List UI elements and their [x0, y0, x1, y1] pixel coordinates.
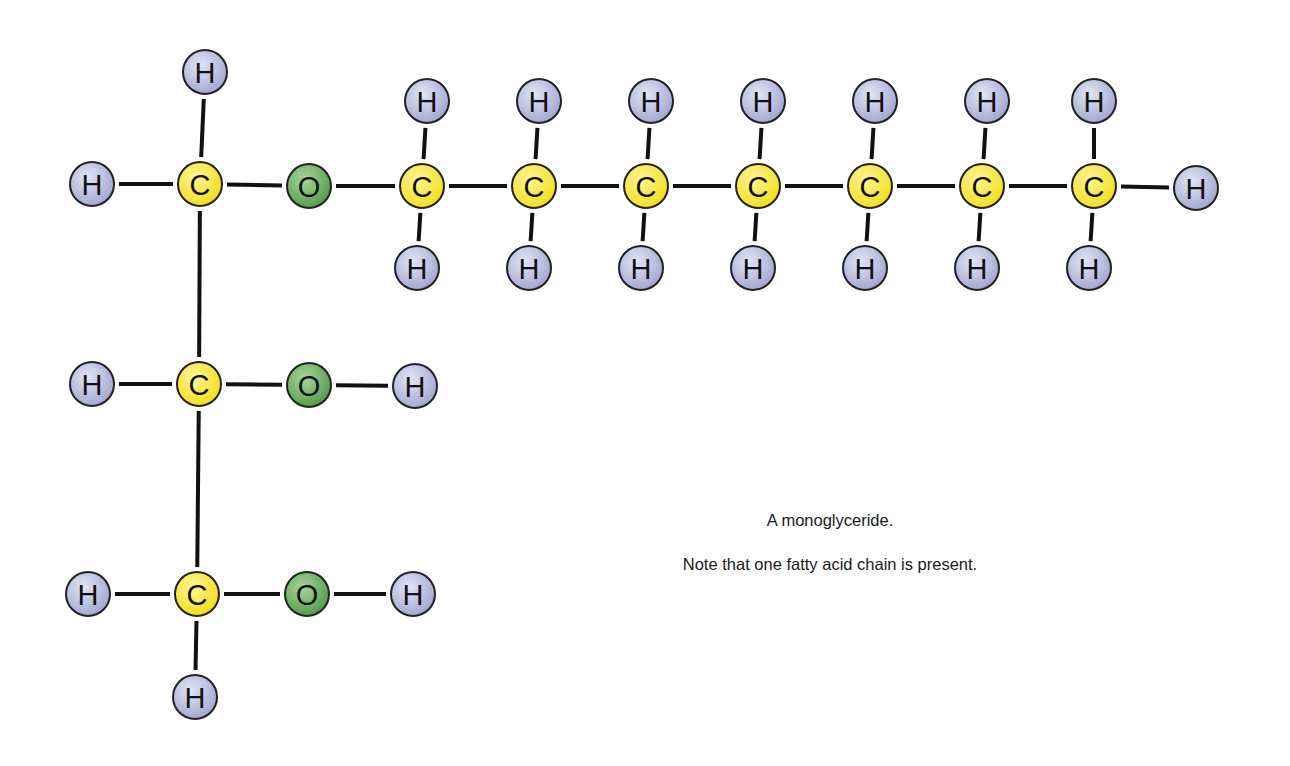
- atom-label: H: [1079, 253, 1100, 285]
- bond-CA6-HT6: [984, 128, 986, 159]
- atom-label: H: [417, 86, 438, 118]
- hydrogen-atom: H: [173, 675, 217, 719]
- atom-label: H: [865, 86, 886, 118]
- bond-CA4-HT4: [760, 128, 762, 159]
- hydrogen-atom: H: [405, 79, 449, 123]
- atom-label: H: [195, 57, 216, 89]
- hydrogen-atom: H: [629, 79, 673, 123]
- atom-label: C: [748, 171, 769, 203]
- carbon-atom: C: [624, 164, 668, 208]
- hydrogen-atom: H: [1072, 79, 1116, 123]
- hydrogen-atom: H: [393, 364, 437, 408]
- oxygen-atom: O: [285, 572, 329, 616]
- atom-label: H: [743, 253, 764, 285]
- carbon-atom: C: [736, 164, 780, 208]
- hydrogen-atom: H: [70, 162, 114, 206]
- atom-label: H: [641, 86, 662, 118]
- carbon-atom: C: [960, 164, 1004, 208]
- bond-CA5-HT5: [872, 128, 874, 159]
- atom-label: H: [1084, 86, 1105, 118]
- atom-label: C: [187, 579, 208, 611]
- atom-label: C: [189, 369, 210, 401]
- atom-label: H: [519, 253, 540, 285]
- hydrogen-atom: H: [955, 246, 999, 290]
- bond-CA7-HB7: [1091, 213, 1093, 241]
- atom-label: O: [298, 370, 321, 402]
- atom-label: H: [82, 369, 103, 401]
- carbon-atom: C: [1072, 164, 1116, 208]
- atom-label: H: [855, 253, 876, 285]
- bond-C2-C3: [197, 411, 198, 567]
- bond-CA2-HB2: [531, 213, 533, 241]
- atom-label: H: [78, 579, 99, 611]
- atom-label: H: [405, 371, 426, 403]
- atom-label: H: [185, 682, 206, 714]
- hydrogen-atom: H: [395, 246, 439, 290]
- bond-H1-C1: [201, 99, 204, 157]
- bond-C2-O2: [226, 384, 282, 385]
- atom-label: H: [529, 86, 550, 118]
- atom-label: C: [524, 171, 545, 203]
- atom-label: C: [190, 169, 211, 201]
- bond-CA3-HT3: [648, 128, 650, 159]
- bond-CA1-HB1: [419, 213, 421, 241]
- hydrogen-atom: H: [965, 79, 1009, 123]
- atom-label: O: [296, 579, 319, 611]
- carbon-atom: C: [848, 164, 892, 208]
- hydrogen-atom: H: [1067, 246, 1111, 290]
- hydrogen-atom: H: [66, 572, 110, 616]
- carbon-atom: C: [512, 164, 556, 208]
- hydrogen-atom: H: [1174, 166, 1218, 210]
- bond-CA3-HB3: [643, 213, 645, 241]
- atom-label: H: [631, 253, 652, 285]
- bond-CA1-HT1: [424, 128, 426, 159]
- bond-CA7-HE: [1121, 187, 1169, 188]
- hydrogen-atom: H: [70, 362, 114, 406]
- hydrogen-atom: H: [853, 79, 897, 123]
- carbon-atom: C: [400, 164, 444, 208]
- atom-label: H: [403, 579, 424, 611]
- diagram-title: A monoglyceride.: [560, 511, 1100, 530]
- carbon-atom: C: [178, 162, 222, 206]
- atom-label: H: [753, 86, 774, 118]
- atom-label: C: [860, 171, 881, 203]
- bond-CA2-HT2: [536, 128, 538, 159]
- hydrogen-atom: H: [517, 79, 561, 123]
- hydrogen-atom: H: [507, 246, 551, 290]
- hydrogen-atom: H: [183, 50, 227, 94]
- atom-label: C: [636, 171, 657, 203]
- atom-label: C: [1084, 171, 1105, 203]
- atom-label: H: [1186, 173, 1207, 205]
- hydrogen-atom: H: [741, 79, 785, 123]
- atom-label: O: [298, 171, 321, 203]
- atom-label: H: [977, 86, 998, 118]
- oxygen-atom: O: [287, 164, 331, 208]
- hydrogen-atom: H: [619, 246, 663, 290]
- bond-CA6-HB6: [979, 213, 981, 241]
- diagram-note: Note that one fatty acid chain is presen…: [560, 555, 1100, 574]
- carbon-atom: C: [175, 572, 219, 616]
- hydrogen-atom: H: [843, 246, 887, 290]
- atom-label: C: [412, 171, 433, 203]
- bond-C1-C2: [199, 211, 200, 357]
- atom-label: H: [407, 253, 428, 285]
- molecule-structure: HHCOHCOHHCOHHCCCCCCCHHHHHHHHHHHHHHH: [0, 0, 1290, 766]
- atom-label: H: [82, 169, 103, 201]
- hydrogen-atom: H: [391, 572, 435, 616]
- atom-label: H: [967, 253, 988, 285]
- atom-label: C: [972, 171, 993, 203]
- bond-CA5-HB5: [867, 213, 869, 241]
- bond-C1-O1: [227, 184, 282, 185]
- diagram-canvas: HHCOHCOHHCOHHCCCCCCCHHHHHHHHHHHHHHH A mo…: [0, 0, 1290, 766]
- bond-C3-H7: [196, 621, 197, 670]
- carbon-atom: C: [177, 362, 221, 406]
- bond-CA4-HB4: [755, 213, 757, 241]
- oxygen-atom: O: [287, 363, 331, 407]
- hydrogen-atom: H: [731, 246, 775, 290]
